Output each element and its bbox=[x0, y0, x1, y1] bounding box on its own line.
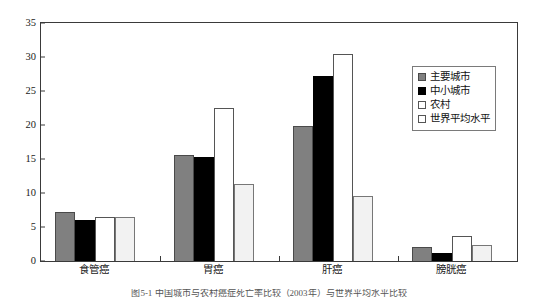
bar-group bbox=[174, 23, 254, 261]
legend-swatch-icon bbox=[418, 73, 426, 81]
bar bbox=[293, 126, 313, 261]
y-tick-mark bbox=[41, 261, 45, 262]
bar-group bbox=[412, 23, 492, 261]
bar bbox=[95, 217, 115, 261]
y-tick-label: 30 bbox=[26, 52, 42, 63]
bar bbox=[432, 253, 452, 261]
legend-label: 世界平均水平 bbox=[430, 114, 490, 125]
bar bbox=[472, 245, 492, 261]
x-axis-label: 食管癌 bbox=[79, 265, 109, 276]
y-tick-mark bbox=[41, 91, 45, 92]
plot-area: 05101520253035 bbox=[40, 22, 518, 262]
x-axis-label: 肝癌 bbox=[322, 265, 342, 276]
y-tick-label: 0 bbox=[31, 256, 41, 267]
x-tick-mark bbox=[160, 256, 161, 261]
legend-label: 中小城市 bbox=[430, 86, 470, 97]
y-tick-mark bbox=[41, 57, 45, 58]
legend-swatch-icon bbox=[418, 87, 426, 95]
x-tick-mark bbox=[517, 256, 518, 261]
x-axis-label: 膀胱癌 bbox=[436, 265, 466, 276]
y-tick-mark bbox=[41, 193, 45, 194]
bar-group bbox=[55, 23, 135, 261]
y-tick-mark bbox=[41, 227, 45, 228]
bar bbox=[174, 155, 194, 261]
legend-item[interactable]: 世界平均水平 bbox=[418, 112, 490, 126]
legend-label: 主要城市 bbox=[430, 72, 470, 83]
legend-item[interactable]: 中小城市 bbox=[418, 84, 490, 98]
bar bbox=[55, 212, 75, 261]
y-tick-label: 25 bbox=[26, 86, 42, 97]
bar bbox=[234, 184, 254, 261]
bar-group bbox=[293, 23, 373, 261]
y-tick-mark bbox=[41, 23, 45, 24]
y-tick-mark bbox=[41, 159, 45, 160]
legend-label: 农村 bbox=[430, 100, 450, 111]
bar bbox=[412, 247, 432, 261]
y-tick-label: 10 bbox=[26, 188, 42, 199]
x-tick-mark bbox=[279, 256, 280, 261]
bar bbox=[194, 157, 214, 261]
legend-item[interactable]: 主要城市 bbox=[418, 70, 490, 84]
y-tick-mark bbox=[41, 125, 45, 126]
bars-container bbox=[41, 23, 517, 261]
x-axis-label: 胃癌 bbox=[203, 265, 223, 276]
y-tick-label: 5 bbox=[31, 222, 41, 233]
bar bbox=[333, 54, 353, 261]
bar bbox=[214, 108, 234, 261]
bar-chart: 05101520253035 食管癌胃癌肝癌膀胱癌 主要城市中小城市农村世界平均… bbox=[0, 0, 538, 304]
y-tick-label: 20 bbox=[26, 120, 42, 131]
bar bbox=[452, 236, 472, 261]
legend-swatch-icon bbox=[418, 115, 426, 123]
y-tick-label: 15 bbox=[26, 154, 42, 165]
legend-item[interactable]: 农村 bbox=[418, 98, 490, 112]
x-tick-mark bbox=[398, 256, 399, 261]
y-tick-label: 35 bbox=[26, 18, 42, 29]
legend: 主要城市中小城市农村世界平均水平 bbox=[412, 66, 496, 131]
bar bbox=[353, 196, 373, 261]
bar bbox=[75, 220, 95, 261]
bar bbox=[313, 76, 333, 261]
legend-swatch-icon bbox=[418, 101, 426, 109]
figure-caption: 图5-1 中国城市与农村癌症死亡率比较（2003年）与世界平均水平比较 bbox=[0, 289, 538, 299]
bar bbox=[115, 217, 135, 261]
